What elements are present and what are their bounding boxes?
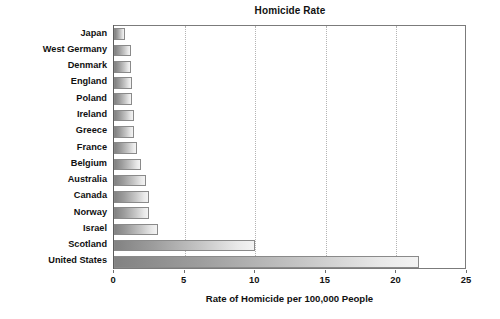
y-label-norway: Norway [0,207,107,218]
x-tick-mark-15 [325,270,326,273]
bar-scotland[interactable] [114,240,255,252]
y-label-japan: Japan [0,28,107,39]
bar-united-states[interactable] [114,256,419,268]
bar-denmark[interactable] [114,61,131,73]
bar-row [114,42,465,58]
chart-title: Homicide Rate [113,5,467,16]
bar-row [114,172,465,188]
bar-west-germany[interactable] [114,45,131,57]
bar-france[interactable] [114,142,137,154]
x-tick-label-15: 15 [320,274,330,285]
bar-row [114,140,465,156]
y-label-greece: Greece [0,125,107,136]
bar-row [114,91,465,107]
y-label-belgium: Belgium [0,158,107,169]
y-label-united-states: United States [0,255,107,266]
bar-greece[interactable] [114,126,134,138]
bar-row [114,156,465,172]
x-tick-label-20: 20 [390,274,400,285]
bar-row [114,221,465,237]
y-label-west-germany: West Germany [0,44,107,55]
bars-layer [114,26,465,268]
bar-belgium[interactable] [114,159,141,171]
bar-row [114,59,465,75]
bar-england[interactable] [114,77,132,89]
bar-australia[interactable] [114,175,146,187]
x-tick-mark-0 [113,270,114,273]
bar-row [114,124,465,140]
plot-area [113,25,466,269]
x-tick-label-10: 10 [249,274,259,285]
y-label-denmark: Denmark [0,60,107,71]
x-axis-ticks: 0510152025 [113,270,466,290]
x-tick-label-25: 25 [461,274,471,285]
x-tick-label-0: 0 [110,274,115,285]
bar-japan[interactable] [114,28,125,40]
bar-row [114,26,465,42]
x-tick-mark-5 [184,270,185,273]
y-axis-category-labels: JapanWest GermanyDenmarkEnglandPolandIre… [0,25,107,269]
y-label-poland: Poland [0,93,107,104]
y-label-israel: Israel [0,223,107,234]
x-axis-title: Rate of Homicide per 100,000 People [113,293,466,304]
bar-norway[interactable] [114,207,149,219]
x-tick-mark-25 [466,270,467,273]
y-label-canada: Canada [0,190,107,201]
bar-row [114,75,465,91]
bar-row [114,254,465,270]
y-label-france: France [0,142,107,153]
x-tick-mark-20 [395,270,396,273]
bar-canada[interactable] [114,191,149,203]
bar-row [114,205,465,221]
bar-row [114,107,465,123]
y-label-ireland: Ireland [0,109,107,120]
bar-israel[interactable] [114,224,158,236]
bar-ireland[interactable] [114,110,134,122]
y-label-scotland: Scotland [0,239,107,250]
y-label-england: England [0,76,107,87]
y-label-australia: Australia [0,174,107,185]
bar-poland[interactable] [114,93,132,105]
x-tick-mark-10 [254,270,255,273]
bar-row [114,189,465,205]
y-axis-line [113,25,114,269]
x-tick-label-5: 5 [181,274,186,285]
bar-row [114,237,465,253]
homicide-rate-bar-chart: Homicide Rate JapanWest GermanyDenmarkEn… [0,0,500,319]
